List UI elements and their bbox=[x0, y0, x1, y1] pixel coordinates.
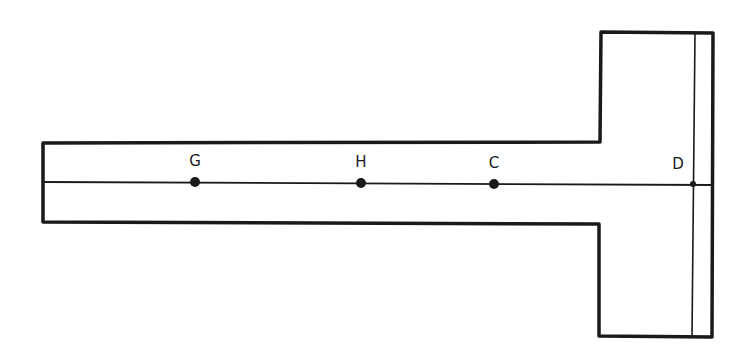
centerline bbox=[43, 182, 712, 185]
point-d-label: D bbox=[672, 155, 684, 173]
t-shaped-body-diagram: G H C D bbox=[0, 0, 746, 355]
point-g-label: G bbox=[189, 152, 201, 170]
point-d: D bbox=[672, 155, 696, 187]
point-h: H bbox=[355, 153, 366, 188]
point-c: C bbox=[489, 154, 499, 189]
point-g: G bbox=[189, 152, 201, 187]
point-h-label: H bbox=[355, 153, 366, 171]
point-c-label: C bbox=[489, 154, 499, 172]
